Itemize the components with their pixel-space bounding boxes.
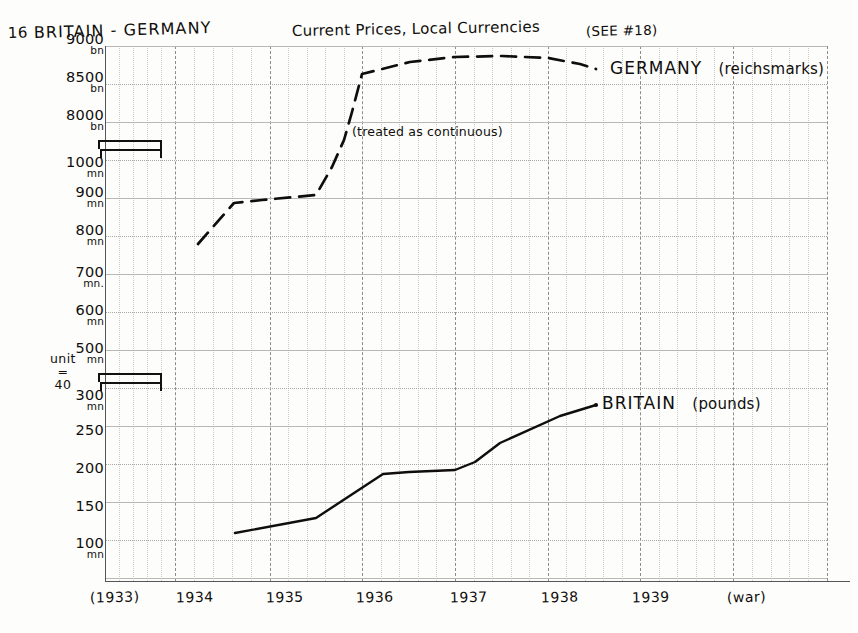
britain-series-line — [235, 405, 596, 533]
germany-series-line — [198, 56, 596, 244]
chart-sheet: 16 BRITAIN - GERMANY Current Prices, Loc… — [0, 0, 858, 633]
series-lines — [0, 0, 858, 633]
britain-end-dot — [594, 403, 598, 407]
